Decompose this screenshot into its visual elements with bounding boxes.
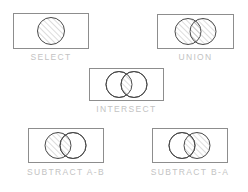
operation-label-subtract-ab: SUBTRACT A-B	[8, 167, 124, 177]
operation-label-subtract-ba: SUBTRACT B-A	[132, 167, 248, 177]
operation-subtract-ab[interactable]	[28, 128, 104, 163]
operation-label-select: SELECT	[13, 52, 89, 62]
operation-union[interactable]	[157, 14, 234, 49]
circle-b	[184, 133, 210, 159]
circle-a	[38, 18, 65, 45]
operation-intersect[interactable]	[89, 68, 164, 101]
venn-graphic-select	[13, 13, 89, 49]
venn-graphic-subtract-ba	[152, 128, 228, 163]
venn-graphic-intersect	[89, 68, 164, 101]
operation-select[interactable]	[13, 13, 89, 49]
operation-label-intersect: INTERSECT	[86, 104, 167, 114]
venn-graphic-subtract-ab	[28, 128, 104, 163]
circle-a	[45, 133, 71, 159]
boolean-operations-diagram: SELECT UNION	[0, 0, 248, 192]
operation-label-union: UNION	[157, 52, 234, 62]
circle-b	[190, 19, 216, 45]
venn-graphic-union	[157, 14, 234, 49]
operation-subtract-ba[interactable]	[152, 128, 228, 163]
